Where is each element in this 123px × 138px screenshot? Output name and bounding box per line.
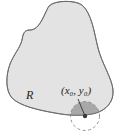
region-label: R: [26, 88, 33, 103]
region-r: [7, 1, 113, 115]
boundary-point: [83, 114, 87, 118]
region-diagram: [0, 0, 123, 138]
point-label: (x₀, y₀): [61, 84, 91, 96]
